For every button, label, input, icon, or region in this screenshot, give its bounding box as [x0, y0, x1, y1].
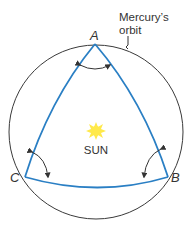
orbit-label-leader: [126, 36, 128, 49]
spherical-triangle-side-cb: [25, 177, 168, 188]
vertex-label-a: A: [89, 28, 99, 43]
spherical-triangle-side-ab: [95, 44, 168, 177]
sun-icon: [86, 122, 106, 140]
spherical-triangle-side-ac: [25, 44, 95, 177]
sun-label: SUN: [84, 144, 108, 156]
angle-arrow-b: [144, 149, 161, 177]
mercury-orbit-diagram: Mercury’s orbit A C B SUN: [0, 0, 193, 230]
vertex-label-c: C: [10, 170, 20, 185]
orbit-label-line2: orbit: [119, 24, 142, 36]
angle-arrow-c: [32, 152, 48, 177]
angle-arrow-a: [80, 65, 110, 69]
orbit-label-line1: Mercury’s: [119, 11, 169, 23]
vertex-label-b: B: [171, 170, 180, 185]
